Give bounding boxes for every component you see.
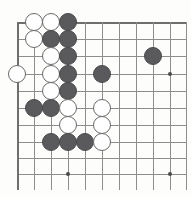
white-stone: [42, 13, 60, 31]
stone-layer: [0, 0, 191, 197]
white-stone: [42, 65, 60, 83]
black-stone: [59, 30, 77, 48]
white-stone: [93, 99, 111, 117]
white-stone: [93, 116, 111, 134]
black-stone: [59, 47, 77, 65]
black-stone: [59, 13, 77, 31]
black-stone: [144, 47, 162, 65]
white-stone: [59, 99, 77, 117]
go-board-diagram: [0, 0, 191, 197]
black-stone: [59, 133, 77, 151]
black-stone: [42, 99, 60, 117]
white-stone: [25, 13, 43, 31]
white-stone: [42, 47, 60, 65]
white-stone: [93, 133, 111, 151]
black-stone: [93, 65, 111, 83]
black-stone: [25, 99, 43, 117]
black-stone: [76, 133, 94, 151]
black-stone: [59, 82, 77, 100]
black-stone: [42, 30, 60, 48]
white-stone: [59, 116, 77, 134]
white-stone: [8, 65, 26, 83]
black-stone: [42, 133, 60, 151]
white-stone: [25, 30, 43, 48]
white-stone: [42, 82, 60, 100]
black-stone: [59, 65, 77, 83]
